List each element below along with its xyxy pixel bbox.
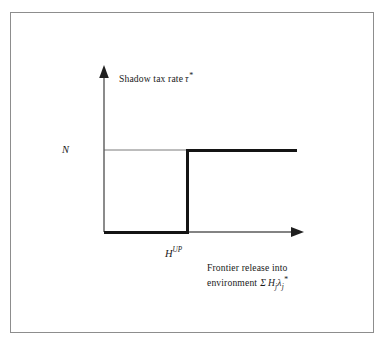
sigma-symbol: Σ: [260, 277, 268, 288]
x-axis-arrowhead-icon: [291, 227, 304, 237]
x-axis-title-line2: environmentΣHjλj*: [207, 275, 288, 292]
tau-superscript-star: *: [189, 71, 194, 80]
expression-superscript-star: *: [284, 275, 288, 284]
y-axis-title: Shadow tax rateτ*: [119, 71, 193, 86]
threshold-h-symbol: H: [165, 248, 173, 259]
y-axis-level-label-n: N: [62, 143, 69, 157]
threshold-superscript-up: UP: [173, 246, 183, 254]
frontier-release-expression: ΣHjλj*: [257, 277, 288, 288]
x-axis-title: Frontier release intoenvironmentΣHjλj*: [207, 262, 288, 292]
x-axis-title-line2-prefix: environment: [207, 277, 257, 288]
y-axis-title-text: Shadow tax rate: [119, 73, 183, 84]
x-axis-threshold-label: HUP: [165, 246, 182, 260]
figure-root: Shadow tax rateτ* N HUP Frontier release…: [0, 0, 389, 349]
x-axis-title-line1: Frontier release into: [207, 262, 288, 275]
tau-symbol: τ: [183, 73, 189, 84]
step-function-plot: [0, 0, 389, 349]
y-axis-arrowhead-icon: [99, 65, 109, 78]
